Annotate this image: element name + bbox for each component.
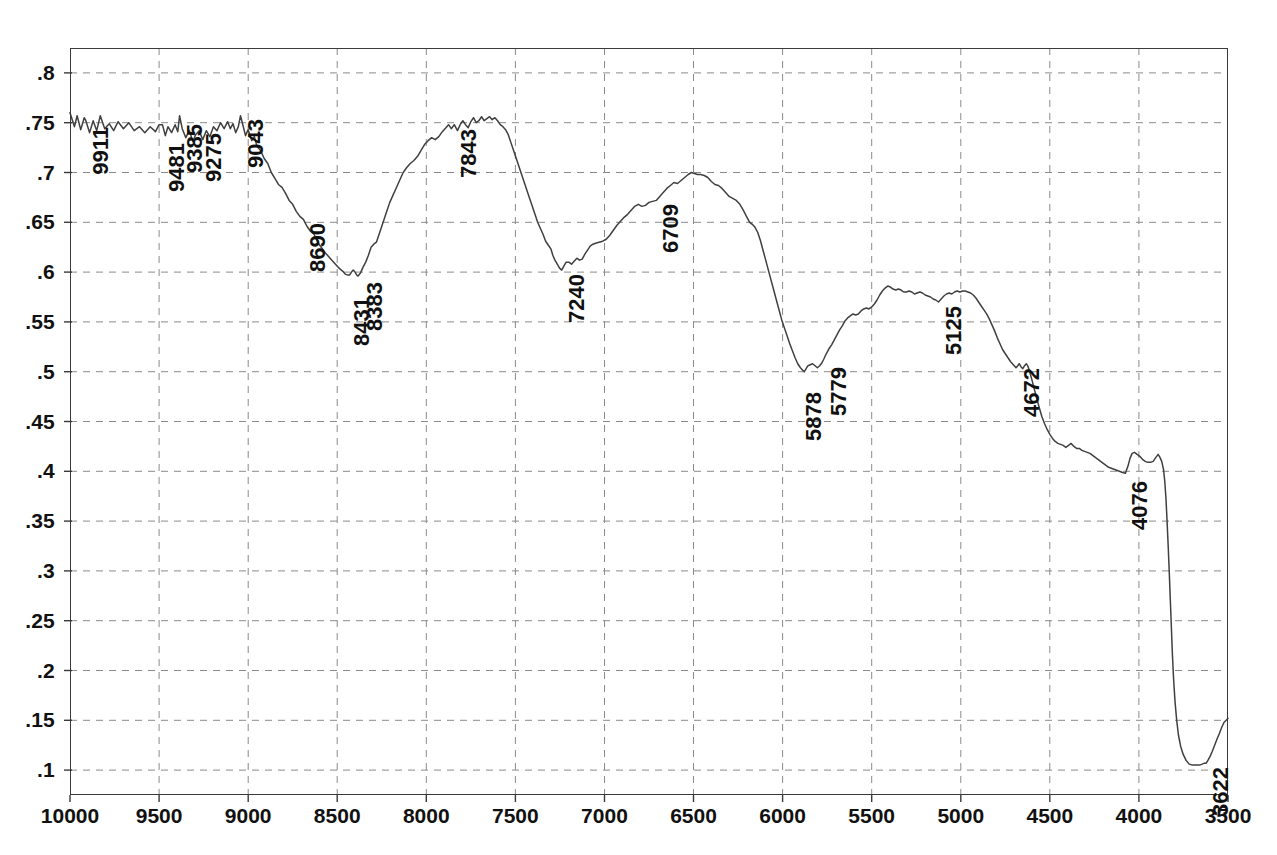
x-tick-label: 8000	[403, 804, 450, 828]
peak-label: 5878	[801, 392, 827, 441]
x-tick-label: 4000	[1116, 804, 1163, 828]
y-tick-label: .2	[37, 659, 63, 683]
x-tick-label: 6000	[759, 804, 806, 828]
peak-label: 4672	[1019, 368, 1045, 417]
peak-label: 9043	[243, 119, 269, 168]
peak-label: 8690	[305, 223, 331, 272]
x-tick-label: 9500	[136, 804, 183, 828]
x-tick-label: 8500	[314, 804, 361, 828]
y-tick-label: .1	[37, 758, 63, 782]
peak-label: 7843	[456, 129, 482, 178]
x-tick-label: 5500	[848, 804, 895, 828]
y-tick-label: .4	[37, 459, 63, 483]
y-tick-label: .75	[25, 111, 63, 135]
x-tick-label: 9000	[225, 804, 272, 828]
peak-annotation-labels: 9911948193859275904386908431838378437240…	[70, 48, 1228, 795]
y-tick-label: .45	[25, 410, 63, 434]
x-tick-label: 10000	[41, 804, 99, 828]
y-tick-label: .6	[37, 260, 63, 284]
y-tick-label: .5	[37, 360, 63, 384]
peak-label: 4076	[1127, 481, 1153, 530]
y-tick-label: .65	[25, 210, 63, 234]
x-tick-label: 3500	[1205, 804, 1252, 828]
y-tick-label: .25	[25, 609, 63, 633]
peak-label: 6709	[658, 204, 684, 253]
y-tick-label: .3	[37, 559, 63, 583]
peak-label: 5779	[826, 367, 852, 416]
y-tick-label: .35	[25, 509, 63, 533]
peak-label: 7240	[564, 274, 590, 323]
x-tick-label: 7500	[492, 804, 539, 828]
y-axis-tick-labels: .8.75.7.65.6.55.5.45.4.35.3.25.2.15.1	[0, 48, 63, 795]
x-tick-label: 7000	[581, 804, 628, 828]
peak-label: 9911	[88, 127, 114, 175]
x-tick-label: 4500	[1026, 804, 1073, 828]
x-axis-tick-labels: 1000095009000850080007500700065006000550…	[70, 800, 1228, 840]
chart-page: .8.75.7.65.6.55.5.45.4.35.3.25.2.15.1 99…	[0, 0, 1277, 855]
y-tick-label: .15	[25, 708, 63, 732]
peak-label: 5125	[941, 306, 967, 355]
peak-label: 9275	[201, 133, 227, 182]
x-tick-label: 5000	[937, 804, 984, 828]
y-tick-label: .55	[25, 310, 63, 334]
x-tick-label: 6500	[670, 804, 717, 828]
y-tick-label: .8	[37, 61, 63, 85]
peak-label: 8383	[362, 282, 388, 331]
y-tick-label: .7	[37, 161, 63, 185]
